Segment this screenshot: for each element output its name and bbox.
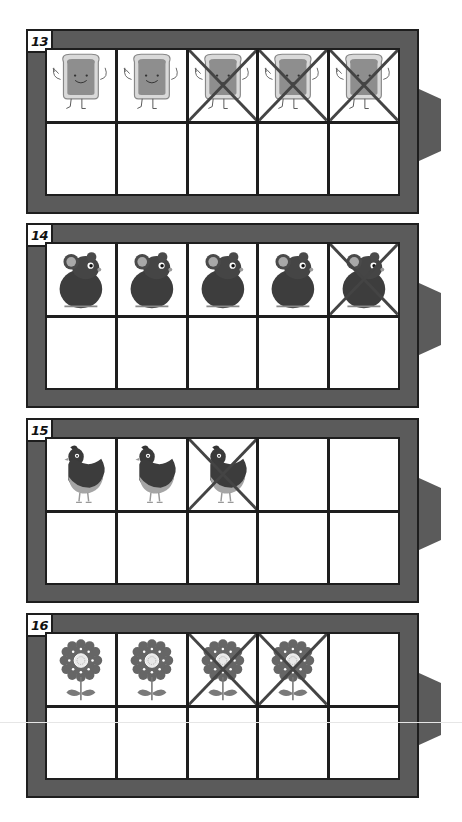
cross-out-mark <box>189 50 257 121</box>
crossed-picture-cell <box>189 634 257 705</box>
empty-cell <box>330 634 398 705</box>
cross-out-mark <box>259 634 327 705</box>
cross-out-mark <box>189 634 257 705</box>
cross-out-mark <box>259 50 327 121</box>
ten-frame-16: 16 <box>26 613 419 798</box>
picture-cell <box>47 50 115 121</box>
empty-cell <box>118 513 186 584</box>
toast-icon <box>47 50 115 121</box>
frame-tab <box>419 478 441 550</box>
empty-cell <box>118 124 186 195</box>
picture-cell <box>118 634 186 705</box>
hen-icon <box>118 439 186 510</box>
empty-cell <box>330 439 398 510</box>
empty-cell <box>259 439 327 510</box>
picture-cell <box>118 439 186 510</box>
hen-icon <box>47 439 115 510</box>
mouse-icon <box>118 244 186 315</box>
ten-frame-grid <box>45 242 400 390</box>
empty-cell <box>259 124 327 195</box>
empty-cell <box>330 318 398 389</box>
ten-frame-13: 13 <box>26 29 419 214</box>
frame-tab <box>419 673 441 745</box>
ten-frame-grid <box>45 48 400 196</box>
cross-out-mark <box>330 244 398 315</box>
crossed-picture-cell <box>259 50 327 121</box>
picture-cell <box>47 244 115 315</box>
empty-cell <box>259 708 327 779</box>
crossed-picture-cell <box>330 244 398 315</box>
crossed-picture-cell <box>189 50 257 121</box>
flower-icon <box>118 634 186 705</box>
frame-tab <box>419 89 441 161</box>
empty-cell <box>47 513 115 584</box>
empty-cell <box>259 318 327 389</box>
empty-cell <box>47 124 115 195</box>
picture-cell <box>47 634 115 705</box>
empty-cell <box>189 513 257 584</box>
picture-cell <box>47 439 115 510</box>
empty-cell <box>189 318 257 389</box>
empty-cell <box>330 708 398 779</box>
cross-out-mark <box>189 439 257 510</box>
mouse-icon <box>259 244 327 315</box>
frame-tab <box>419 283 441 355</box>
cross-out-mark <box>330 50 398 121</box>
empty-cell <box>330 513 398 584</box>
toast-icon <box>118 50 186 121</box>
empty-cell <box>189 124 257 195</box>
picture-cell <box>189 244 257 315</box>
empty-cell <box>118 318 186 389</box>
mouse-icon <box>189 244 257 315</box>
empty-cell <box>47 318 115 389</box>
empty-cell <box>259 513 327 584</box>
empty-cell <box>47 708 115 779</box>
crossed-picture-cell <box>189 439 257 510</box>
picture-cell <box>118 50 186 121</box>
crossed-picture-cell <box>330 50 398 121</box>
empty-cell <box>330 124 398 195</box>
picture-cell <box>259 244 327 315</box>
ten-frame-14: 14 <box>26 223 419 408</box>
empty-cell <box>118 708 186 779</box>
flower-icon <box>47 634 115 705</box>
scan-line <box>0 722 462 723</box>
ten-frame-15: 15 <box>26 418 419 603</box>
ten-frame-grid <box>45 632 400 780</box>
crossed-picture-cell <box>259 634 327 705</box>
picture-cell <box>118 244 186 315</box>
ten-frame-grid <box>45 437 400 585</box>
empty-cell <box>189 708 257 779</box>
mouse-icon <box>47 244 115 315</box>
